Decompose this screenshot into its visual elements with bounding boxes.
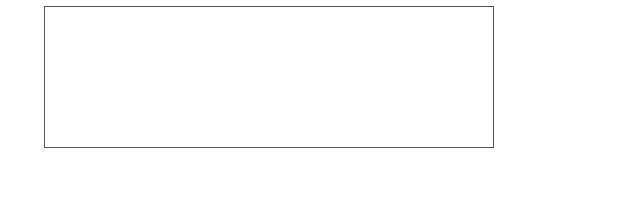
x-axis-tick-labels [44,150,494,196]
bar-series-group [45,7,493,147]
plot-area [44,6,494,148]
y-axis-tick-labels [18,6,40,148]
chart-figure [0,0,619,198]
